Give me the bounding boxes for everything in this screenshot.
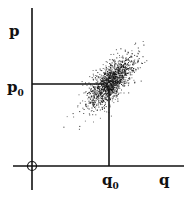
p0-label: p0 — [7, 80, 24, 98]
diagram-canvas — [0, 0, 192, 199]
scatter-cloud — [63, 41, 147, 130]
x-axis-label: q — [159, 173, 170, 188]
y-axis-label: p — [9, 24, 20, 39]
q0-label: q0 — [102, 173, 119, 191]
phase-plane-diagram: p p0 q0 q — [0, 0, 192, 199]
